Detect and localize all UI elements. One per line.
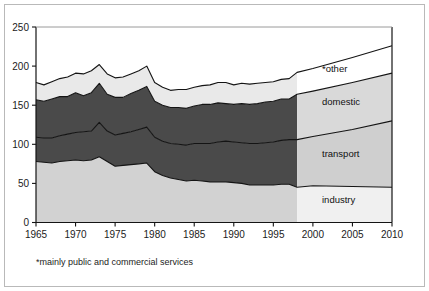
- y-tick-label: 50: [18, 178, 30, 189]
- series-label-transport: transport: [322, 148, 360, 159]
- y-tick-label: 0: [23, 217, 29, 228]
- chart-figure: 0501001502002501965197019751980198519901…: [0, 0, 429, 291]
- x-tick-label: 1965: [25, 229, 48, 240]
- x-tick-label: 2000: [302, 229, 325, 240]
- footnote: *mainly public and commercial services: [36, 257, 194, 267]
- y-tick-label: 200: [12, 61, 29, 72]
- y-tick-label: 250: [12, 22, 29, 33]
- stacked-area-chart: 0501001502002501965197019751980198519901…: [0, 0, 429, 291]
- x-tick-label: 1970: [64, 229, 87, 240]
- x-tick-label: 1975: [104, 229, 127, 240]
- x-tick-label: 1985: [183, 229, 206, 240]
- y-tick-label: 100: [12, 139, 29, 150]
- y-tick-label: 150: [12, 100, 29, 111]
- x-tick-label: 1995: [262, 229, 285, 240]
- x-tick-label: 2010: [381, 229, 404, 240]
- series-label-industry: industry: [322, 194, 356, 205]
- x-tick-label: 2005: [341, 229, 364, 240]
- x-tick-label: 1980: [144, 229, 167, 240]
- series-label-other: *other: [322, 63, 347, 74]
- x-tick-label: 1990: [223, 229, 246, 240]
- series-label-domestic: domestic: [322, 96, 360, 107]
